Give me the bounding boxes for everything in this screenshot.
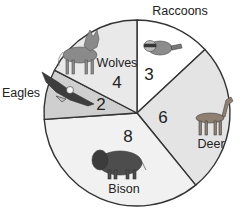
label-value-bison: 8 (123, 127, 132, 146)
label-name-eagles: Eagles (2, 86, 40, 100)
label-name-wolves: Wolves (97, 56, 138, 70)
pie-chart: 3 6 8 2 4 Raccoons Deer Bison Eagles Wol… (0, 0, 240, 215)
label-name-raccoons: Raccoons (152, 4, 208, 18)
label-value-wolves: 4 (112, 73, 121, 92)
label-name-bison: Bison (108, 182, 139, 196)
label-value-raccoons: 3 (144, 65, 153, 84)
label-name-deer: Deer (197, 137, 224, 151)
label-value-eagles: 2 (96, 95, 105, 114)
label-value-deer: 6 (158, 108, 167, 127)
